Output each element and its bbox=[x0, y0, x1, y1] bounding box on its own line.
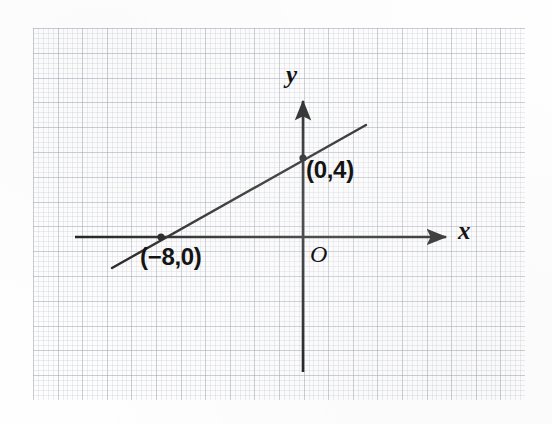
point-label-y-intercept: (0,4) bbox=[306, 158, 354, 182]
x-axis-label: x bbox=[458, 218, 471, 243]
y-axis-label: y bbox=[286, 62, 297, 87]
point-dot-x-intercept bbox=[157, 233, 164, 240]
point-label-x-intercept: (−8,0) bbox=[140, 245, 202, 269]
origin-label: O bbox=[310, 242, 327, 266]
plot-canvas bbox=[0, 0, 552, 424]
coordinate-plane-figure: y x O (0,4) (−8,0) bbox=[0, 0, 552, 424]
